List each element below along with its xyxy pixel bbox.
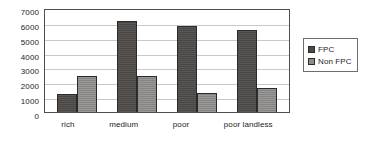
x-axis-tick-label: poor landless [224,120,273,129]
legend-item-non-fpc: Non FPC [308,55,352,67]
y-axis-tick-label: 4000 [21,54,39,62]
x-axis: richmediumpoorpoor landless [44,120,290,134]
legend-label: FPC [318,45,334,54]
x-axis-tick-label: rich [61,120,74,129]
bar-chart-figure: 70006000500040003000200010000 richmedium… [0,0,381,141]
y-axis-tick-label: 5000 [21,39,39,47]
bar-group [177,10,217,112]
bar-group [237,10,277,112]
y-axis-tick-label: 0 [34,113,39,121]
bar-fpc-poor [177,26,197,112]
y-axis-tick-label: 3000 [21,68,39,76]
legend-label: Non FPC [318,57,352,66]
legend-item-fpc: FPC [308,43,352,55]
bar-non-fpc-rich [77,76,97,112]
plot-area [44,9,290,113]
x-axis-tick-label: poor [173,120,189,129]
x-axis-tick-label: medium [109,120,138,129]
bar-fpc-rich [57,94,77,112]
legend-swatch-icon [308,46,315,53]
bar-fpc-medium [117,21,137,112]
y-axis-tick-label: 2000 [21,83,39,91]
y-axis-tick-label: 6000 [21,24,39,32]
legend-swatch-icon [308,58,315,65]
chart-legend: FPCNon FPC [303,38,358,72]
bar-fpc-poor-landless [237,30,257,112]
bar-group [117,10,157,112]
bar-non-fpc-poor [197,93,217,112]
y-axis-tick-label: 1000 [21,98,39,106]
bar-non-fpc-poor-landless [257,88,277,112]
y-axis-tick-label: 7000 [21,9,39,17]
bar-group [57,10,97,112]
bar-non-fpc-medium [137,76,157,112]
y-axis: 70006000500040003000200010000 [0,4,42,118]
bars-layer [45,10,289,112]
